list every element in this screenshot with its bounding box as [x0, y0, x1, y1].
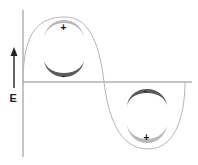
minus-sign: - [62, 71, 65, 81]
sine-wave-curve [23, 17, 185, 149]
plus-sign: + [144, 132, 150, 143]
minus-sign: - [144, 86, 147, 96]
axis-label-e: E [10, 92, 17, 104]
electric-field-wave-diagram: E + - - + [0, 0, 198, 165]
trough-charge-distribution: - + [127, 86, 167, 143]
crest-charge-distribution: + - [44, 20, 84, 81]
negative-crescent [127, 89, 167, 107]
e-field-arrow-icon [11, 47, 18, 88]
plus-sign: + [61, 22, 67, 33]
